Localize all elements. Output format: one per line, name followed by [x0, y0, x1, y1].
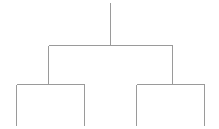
dendrogram-figure [0, 0, 219, 129]
dendrogram-svg [0, 0, 219, 129]
dendrogram-link-group [17, 3, 205, 126]
